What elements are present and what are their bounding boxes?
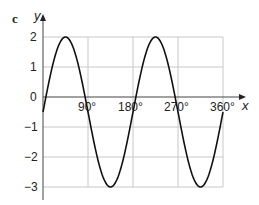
svg-text:0: 0 bbox=[30, 90, 37, 104]
svg-text:360°: 360° bbox=[210, 100, 235, 114]
svg-text:1: 1 bbox=[30, 60, 37, 74]
svg-text:−2: −2 bbox=[24, 150, 38, 164]
x-tick-labels: 90° 180° 270° 360° bbox=[78, 100, 235, 114]
y-tick-labels: 2 1 0 −1 −2 −3 bbox=[24, 30, 38, 194]
svg-text:180°: 180° bbox=[118, 100, 143, 114]
chart: c y x 2 1 0 −1 −2 −3 90° 180° 270° 360° bbox=[0, 0, 259, 205]
y-axis-arrow-icon bbox=[40, 14, 46, 21]
part-label: c bbox=[12, 11, 18, 26]
svg-text:−3: −3 bbox=[24, 180, 38, 194]
svg-text:−1: −1 bbox=[24, 120, 38, 134]
svg-text:2: 2 bbox=[30, 30, 37, 44]
x-axis-label: x bbox=[241, 98, 249, 113]
